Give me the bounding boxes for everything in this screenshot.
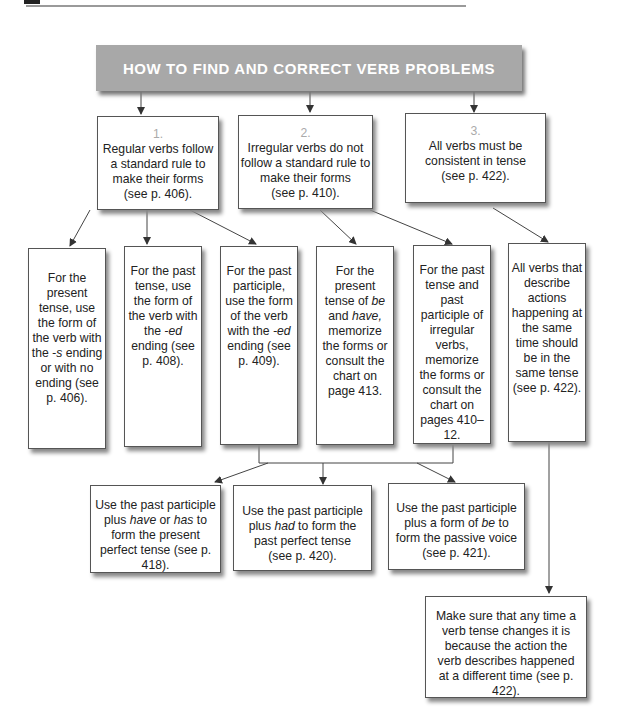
node-ref: (see p. 422). (441, 169, 509, 183)
node-text: Regular verbs follow a standard rule to … (103, 142, 213, 186)
node-past-irregular: For the past tense and past participle o… (413, 245, 491, 444)
node-number: 1. (98, 127, 218, 142)
node-text: All verbs must be consistent in tense (425, 139, 526, 168)
node-past-perfect: Use the past participle plus had to form… (233, 485, 372, 571)
node-text: Irregular verbs do not follow a standard… (241, 141, 370, 185)
node-consistent-tense: 3. All verbs must be consistent in tense… (405, 113, 546, 203)
node-ref: (see p. 410). (271, 186, 339, 200)
node-present-tense-regular: For the present tense, use the form of t… (28, 248, 106, 449)
node-regular-verbs: 1. Regular verbs follow a standard rule … (97, 116, 219, 210)
node-same-time-same-tense: All verbs that describe actions happenin… (508, 243, 586, 442)
node-number: 2. (239, 126, 372, 141)
node-past-tense-regular: For the past tense, use the form of the … (124, 246, 202, 447)
node-passive-voice: Use the past participle plus a form of b… (388, 483, 525, 570)
node-present-perfect: Use the past participle plus have or has… (90, 485, 221, 573)
node-past-participle-regular: For the past participle, use the form of… (220, 246, 298, 445)
node-ref: (see p. 406). (124, 187, 192, 201)
diagram-title: HOW TO FIND AND CORRECT VERB PROBLEMS (96, 45, 522, 91)
node-irregular-verbs: 2. Irregular verbs do not follow a stand… (238, 115, 373, 209)
node-number: 3. (420, 124, 531, 139)
node-present-be-have: For the present tense of be and have, me… (316, 246, 394, 445)
node-tense-change: Make sure that any time a verb tense cha… (425, 596, 587, 698)
